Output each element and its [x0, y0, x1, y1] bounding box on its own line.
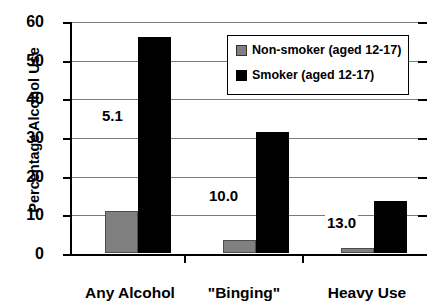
y-tick-right-40 — [418, 99, 427, 101]
annotation-ratio-heavy-use: 13.0 — [325, 214, 358, 231]
gridline-20 — [70, 177, 425, 178]
y-tick-right-50 — [418, 61, 427, 63]
y-tick-60 — [63, 22, 72, 24]
y-axis-label-20: 20 — [0, 169, 44, 185]
category-separator-1 — [184, 254, 186, 263]
y-axis-label-10: 10 — [0, 207, 44, 223]
gridline-30 — [70, 138, 425, 139]
category-separator-2 — [302, 254, 304, 263]
y-tick-40 — [63, 99, 72, 101]
y-tick-right-10 — [418, 215, 427, 217]
legend-label-non-smoker: Non-smoker (aged 12-17) — [252, 44, 401, 57]
y-axis-label-40: 40 — [0, 91, 44, 107]
legend-item-smoker: Smoker (aged 12-17) — [236, 69, 374, 82]
bar-smoker-heavy-use — [374, 201, 407, 253]
bar-nonsmoker-binging — [223, 240, 256, 253]
y-axis-label-60: 60 — [0, 14, 44, 30]
legend-label-smoker: Smoker (aged 12-17) — [252, 69, 374, 82]
gridline-60 — [70, 22, 425, 23]
legend-item-non-smoker: Non-smoker (aged 12-17) — [236, 44, 401, 57]
y-tick-right-20 — [418, 177, 427, 179]
y-tick-10 — [63, 215, 72, 217]
y-axis-label-30: 30 — [0, 130, 44, 146]
y-axis-label-50: 50 — [0, 53, 44, 69]
y-tick-30 — [63, 138, 72, 140]
legend-swatch-icon-non-smoker — [236, 45, 247, 56]
bar-smoker-any-alcohol — [138, 37, 171, 254]
bar-smoker-binging — [256, 132, 289, 253]
y-tick-right-30 — [418, 138, 427, 140]
gridline-40 — [70, 99, 425, 100]
bar-chart: Percentage Alcohol Use 60 50 40 30 20 10… — [0, 0, 440, 301]
x-axis-line — [70, 254, 425, 256]
bar-nonsmoker-any-alcohol — [105, 211, 138, 254]
x-axis-label-binging: "Binging" — [186, 284, 302, 301]
y-tick-right-60 — [418, 22, 427, 24]
annotation-ratio-binging: 10.0 — [207, 187, 240, 204]
y-axis-label-0: 0 — [0, 246, 44, 262]
annotation-ratio-any-alcohol: 5.1 — [100, 107, 125, 124]
x-axis-label-any-alcohol: Any Alcohol — [60, 284, 200, 301]
y-tick-50 — [63, 61, 72, 63]
bar-nonsmoker-heavy-use — [341, 248, 374, 253]
y-tick-20 — [63, 177, 72, 179]
legend-swatch-icon-smoker — [236, 70, 247, 81]
legend: Non-smoker (aged 12-17) Smoker (aged 12-… — [227, 35, 409, 95]
y-tick-0 — [63, 254, 72, 256]
x-axis-label-heavy-use: Heavy Use — [304, 284, 430, 301]
y-tick-right-0 — [418, 254, 427, 256]
